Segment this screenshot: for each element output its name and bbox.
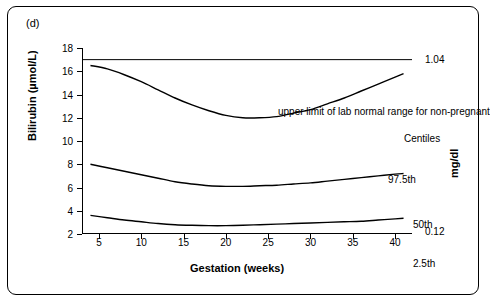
- y-axis-tick-label: 16: [33, 66, 73, 77]
- x-axis-tick-label: 40: [383, 237, 407, 248]
- y-axis-tick: [77, 48, 82, 49]
- chart-curves: [82, 48, 412, 234]
- y-axis-tick-label: 10: [33, 136, 73, 147]
- series-line-50th: [90, 164, 403, 186]
- x-axis-tick-label: 35: [341, 237, 365, 248]
- y-axis-tick-label: 18: [33, 43, 73, 54]
- y-axis-tick-label: 2: [33, 229, 73, 240]
- y-axis-tick-label: 4: [33, 205, 73, 216]
- series-label-97-5th: 97.5th: [388, 174, 416, 185]
- x-axis-tick-label: 5: [87, 237, 111, 248]
- x-axis-line: [82, 233, 412, 234]
- x-axis-title: Gestation (weeks): [190, 262, 284, 274]
- x-axis-tick-label: 20: [214, 237, 238, 248]
- x-axis-tick-label: 30: [298, 237, 322, 248]
- y-axis-tick: [77, 164, 82, 165]
- y-axis-tick-label: 8: [33, 159, 73, 170]
- x-axis-tick-label: 15: [172, 237, 196, 248]
- centiles-caption: Centiles: [404, 133, 440, 144]
- y-axis-tick: [77, 95, 82, 96]
- right-axis-title: mg/dl: [448, 149, 460, 178]
- y-axis-tick: [77, 118, 82, 119]
- plot-area: upper limit of lab normal range for non-…: [82, 48, 412, 234]
- y-axis-line: [82, 48, 83, 234]
- y-axis-tick-label: 12: [33, 112, 73, 123]
- y-axis-tick: [77, 141, 82, 142]
- y-axis-tick: [77, 234, 82, 235]
- y-axis-tick-label: 14: [33, 89, 73, 100]
- series-label-2-5th: 2.5th: [413, 258, 435, 269]
- y-axis-tick: [77, 71, 82, 72]
- series-label-50th: 50th: [413, 219, 432, 230]
- x-axis-tick-label: 25: [256, 237, 280, 248]
- panel-label: (d): [26, 17, 39, 29]
- y-axis-tick: [77, 188, 82, 189]
- upper-limit-label: upper limit of lab normal range for non-…: [278, 106, 490, 117]
- right-axis-top-value: 1.04: [425, 54, 444, 65]
- y-axis-tick-label: 6: [33, 182, 73, 193]
- x-axis-tick-label: 10: [129, 237, 153, 248]
- series-line-2-5th: [90, 215, 403, 225]
- y-axis-tick: [77, 211, 82, 212]
